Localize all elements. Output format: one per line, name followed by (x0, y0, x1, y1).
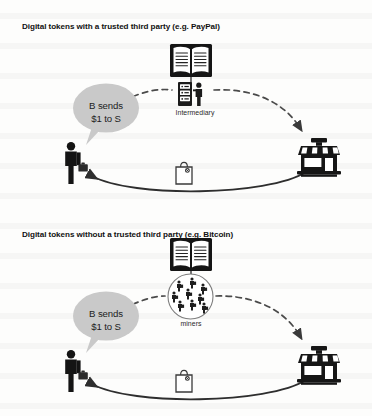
miners-network-circle-icon (168, 274, 213, 319)
shopping-bag-icon (176, 162, 192, 184)
person-with-briefcase-icon (65, 350, 88, 392)
diagram-page: Digital tokens with a trusted third part… (0, 0, 372, 416)
intermediary-label: Intermediary (150, 109, 240, 116)
speech-bubble-text: B sends $1 to S (67, 308, 145, 333)
storefront-icon (297, 138, 341, 177)
open-book-icon (170, 238, 212, 271)
panel-with-third-party: Digital tokens with a trusted third part… (0, 0, 372, 208)
speech-bubble-text: B sends $1 to S (67, 100, 145, 125)
goods-flow-arrow (92, 380, 306, 399)
speech-bubble-line-1: B sends (67, 100, 145, 113)
panel-illustration (0, 0, 372, 208)
person-with-briefcase-icon (65, 142, 88, 184)
goods-flow-arrow (92, 172, 306, 191)
panel-without-third-party: Digital tokens without a trusted third p… (0, 208, 372, 416)
speech-bubble-line-2: $1 to S (67, 321, 145, 334)
panel-illustration (0, 208, 372, 416)
open-book-icon (170, 44, 212, 77)
shopping-bag-icon (176, 370, 192, 392)
speech-bubble-line-1: B sends (67, 308, 145, 321)
storefront-icon (297, 346, 341, 385)
server-rack-with-person-icon (178, 82, 202, 106)
speech-bubble-line-2: $1 to S (67, 113, 145, 126)
miners-label: miners (146, 320, 236, 327)
